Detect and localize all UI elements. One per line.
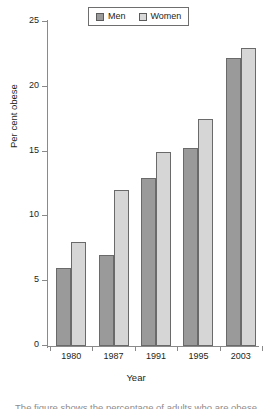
cut-off-caption: The figure shows the percentage of adult… [0, 402, 272, 409]
y-tick-25: 25 [42, 21, 47, 22]
y-axis-title: Per cent obese [8, 136, 20, 148]
y-tick-label-25: 25 [29, 15, 39, 26]
y-axis-line [47, 20, 48, 348]
y-tick-5: 5 [42, 280, 47, 281]
legend-entry-women: Women [139, 12, 182, 21]
bar-men-1987 [99, 255, 114, 346]
legend-swatch-men-icon [96, 13, 104, 21]
bar-women-1980 [71, 242, 86, 346]
legend-swatch-women-icon [139, 13, 147, 21]
bar-men-1995 [183, 148, 198, 346]
x-tick-1995 [177, 346, 178, 351]
bar-men-1980 [56, 268, 71, 346]
bar-men-1991 [141, 178, 156, 346]
x-tick-1987 [92, 346, 93, 351]
x-tick-end [262, 346, 263, 351]
y-tick-label-20: 20 [29, 80, 39, 91]
x-tick-1991 [135, 346, 136, 351]
y-tick-label-15: 15 [29, 145, 39, 156]
bar-chart-figure: Men Women Per cent obese 0510152025 1980… [0, 0, 272, 409]
bar-women-1995 [198, 119, 213, 346]
y-tick-15: 15 [42, 151, 47, 152]
y-tick-0: 0 [42, 345, 47, 346]
legend-entry-men: Men [96, 12, 126, 21]
x-tick-2003 [220, 346, 221, 351]
bar-women-1987 [114, 190, 129, 346]
bar-women-1991 [156, 152, 171, 346]
x-axis-line [47, 346, 259, 347]
legend-label-women: Women [151, 12, 182, 21]
x-axis-title: Year [0, 372, 272, 384]
bar-men-2003 [226, 58, 241, 346]
bar-women-2003 [241, 48, 256, 346]
plot-area: 0510152025 19801987199119952003 [47, 22, 259, 346]
legend-label-men: Men [108, 12, 126, 21]
x-tick-1980 [50, 346, 51, 351]
y-tick-10: 10 [42, 215, 47, 216]
y-tick-label-10: 10 [29, 209, 39, 220]
y-tick-label-5: 5 [34, 274, 39, 285]
y-tick-20: 20 [42, 86, 47, 87]
y-tick-label-0: 0 [34, 339, 39, 350]
